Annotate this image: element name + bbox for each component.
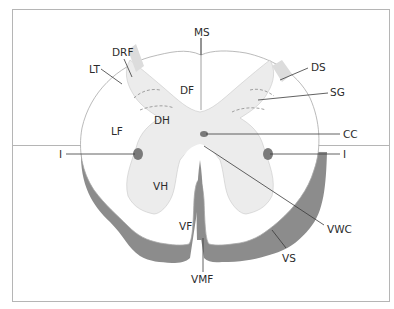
label-dh: DH: [154, 114, 170, 126]
label-vf: VF: [179, 220, 192, 232]
spinal-cord-diagram: MS DRF LT DF DS SG DH LF CC I I VH VF VW…: [0, 0, 394, 309]
label-ms: MS: [194, 26, 210, 38]
label-vh: VH: [153, 180, 168, 192]
label-vwc: VWC: [327, 223, 352, 235]
label-drf: DRF: [112, 46, 133, 58]
label-sg: SG: [330, 86, 345, 98]
label-i-right: I: [343, 148, 346, 160]
label-ds: DS: [311, 61, 326, 73]
label-lf: LF: [111, 125, 123, 137]
label-df: DF: [180, 84, 194, 96]
label-lt: LT: [89, 63, 100, 75]
label-i-left: I: [59, 148, 62, 160]
label-vmf: VMF: [191, 273, 213, 285]
label-vs: VS: [282, 252, 296, 264]
label-cc: CC: [343, 128, 358, 140]
